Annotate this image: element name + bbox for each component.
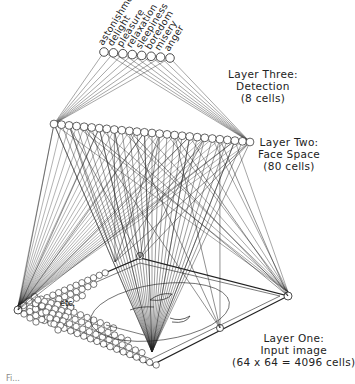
layer-two-name: Face Space	[258, 148, 320, 160]
pixel-cell	[43, 309, 49, 315]
connection-line	[152, 140, 227, 352]
layer-one-title: Layer One:	[232, 332, 355, 344]
pixel-cell	[47, 315, 53, 321]
face-space-cell	[141, 128, 149, 136]
pixel-cell	[73, 289, 79, 295]
pixel-cell	[77, 312, 83, 318]
detection-cell	[156, 53, 165, 62]
connection-line	[18, 136, 190, 306]
face-space-cell	[73, 122, 81, 130]
connection-line	[18, 127, 92, 306]
pixel-cell	[85, 321, 91, 327]
pixel-cell	[33, 312, 39, 318]
layer-two-label: Layer Two: Face Space (80 cells)	[258, 136, 320, 172]
pixel-cell	[91, 317, 97, 323]
detection-cell	[119, 49, 128, 58]
pixel-cell	[112, 339, 118, 345]
pixel-cell	[119, 342, 125, 348]
face-space-cell	[103, 125, 111, 133]
layer-two-title: Layer Two:	[258, 136, 320, 148]
face-space-cell	[193, 133, 201, 141]
pixel-cell	[73, 323, 79, 329]
face-space-cell	[246, 138, 254, 146]
face-space-cell	[148, 129, 156, 137]
connection-line	[18, 125, 69, 306]
layer-one-name: Input image	[232, 344, 355, 356]
pixel-cell	[35, 297, 41, 303]
connection-line	[54, 58, 170, 124]
face-space-cell	[239, 137, 247, 145]
face-space-cell	[208, 135, 216, 143]
face-space-cell	[201, 134, 209, 142]
connection-line	[175, 135, 220, 328]
pixel-cell	[102, 270, 108, 276]
pixel-cell	[140, 357, 146, 363]
connection-line	[18, 140, 227, 306]
connection-line	[54, 52, 104, 124]
face-space-cell	[110, 126, 118, 134]
connection-line	[18, 139, 220, 306]
caption-fragment: Fi...	[6, 374, 20, 383]
pixel-cell	[79, 286, 85, 292]
pixel-cell	[66, 321, 72, 327]
pixel-cell	[80, 326, 86, 332]
pixel-cell	[111, 332, 117, 338]
pixel-cell	[94, 338, 100, 344]
pixel-cell	[87, 336, 93, 342]
pixel-cell	[33, 319, 39, 325]
face-space-cell	[186, 133, 194, 141]
connection-line	[152, 135, 175, 352]
connection-line	[54, 124, 288, 292]
pixel-cell	[51, 321, 57, 327]
face-space-cell	[156, 130, 164, 138]
connection-line	[152, 134, 160, 352]
pixel-cell	[98, 327, 104, 333]
face-space-cell	[95, 124, 103, 132]
pixel-cell	[91, 281, 97, 287]
pixel-cell	[86, 328, 92, 334]
connection-line	[54, 54, 123, 124]
detection-cell	[128, 50, 137, 59]
face-space-cell	[171, 131, 179, 139]
pixel-cell	[67, 285, 73, 291]
pixel-cell	[97, 319, 103, 325]
pixel-cell	[114, 346, 120, 352]
detection-cell	[147, 52, 156, 61]
pixel-cell	[133, 354, 139, 360]
pixel-cell	[78, 319, 84, 325]
pixel-cell	[55, 289, 61, 295]
face-space-cell	[223, 136, 231, 144]
pixel-cell	[61, 287, 67, 293]
connection-line	[69, 125, 140, 258]
pixel-cell	[127, 351, 133, 357]
face-space-cell	[231, 137, 239, 145]
pixel-cell	[85, 284, 91, 290]
face-space-cell	[163, 130, 171, 138]
pixel-cell	[84, 314, 90, 320]
layer-two-count: (80 cells)	[258, 160, 320, 172]
pixel-cell	[39, 316, 45, 322]
pixel-cell	[146, 359, 152, 365]
layer-three-label: Layer Three: Detection (8 cells)	[228, 68, 298, 104]
face-space-cell	[118, 126, 126, 134]
pixel-cell	[110, 325, 116, 331]
face-space-cell	[65, 121, 73, 129]
face-space-cell	[133, 128, 141, 136]
face-space-cell	[80, 123, 88, 131]
detection-cell	[166, 54, 175, 63]
face-space-cell	[178, 132, 186, 140]
layer-one-label: Layer One: Input image (64 x 64 = 4096 c…	[232, 332, 355, 368]
connection-line	[18, 130, 122, 306]
connection-line	[18, 130, 114, 306]
face-space-cell	[58, 121, 66, 129]
pixel-cell	[72, 316, 78, 322]
etc-label: etc.	[60, 299, 75, 308]
connection-line	[54, 56, 151, 124]
pixel-cell	[79, 293, 85, 299]
detection-cell	[109, 49, 118, 58]
connection-line	[18, 135, 175, 306]
emotion-labels: astonishmentdelightpleasurerelaxationsle…	[95, 0, 185, 53]
connection-line	[54, 57, 161, 124]
pixel-cell	[107, 343, 113, 349]
pixel-cell	[96, 272, 102, 278]
